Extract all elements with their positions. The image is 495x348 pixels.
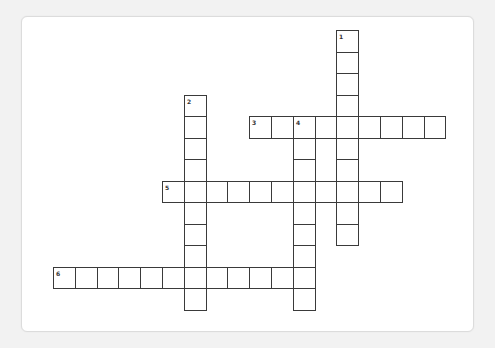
- crossword-cell[interactable]: 1: [336, 30, 359, 53]
- crossword-cell[interactable]: [336, 202, 359, 225]
- crossword-cell[interactable]: [184, 181, 207, 203]
- crossword-cell[interactable]: [249, 181, 272, 203]
- crossword-cell[interactable]: [358, 116, 381, 139]
- crossword-cell[interactable]: [424, 116, 446, 139]
- crossword-cell[interactable]: [206, 267, 228, 289]
- crossword-cell[interactable]: [271, 116, 294, 139]
- crossword-cell[interactable]: 4: [293, 116, 316, 139]
- crossword-cell[interactable]: [336, 138, 359, 160]
- clue-number: 4: [296, 119, 300, 126]
- crossword-cell[interactable]: [336, 181, 359, 203]
- crossword-cell[interactable]: [336, 159, 359, 182]
- crossword-cell[interactable]: [293, 288, 316, 311]
- crossword-cell[interactable]: [293, 181, 316, 203]
- crossword-cell[interactable]: [184, 288, 207, 311]
- crossword-cell[interactable]: [293, 267, 316, 289]
- crossword-cell[interactable]: [402, 116, 425, 139]
- crossword-cell[interactable]: [184, 245, 207, 268]
- crossword-cell[interactable]: [293, 224, 316, 246]
- crossword-cell[interactable]: [249, 267, 272, 289]
- crossword-cell[interactable]: [336, 73, 359, 96]
- clue-number: 1: [339, 33, 343, 40]
- crossword-cell[interactable]: 2: [184, 95, 207, 117]
- clue-number: 3: [252, 119, 256, 126]
- crossword-cell[interactable]: [162, 267, 185, 289]
- crossword-cell[interactable]: [315, 181, 337, 203]
- crossword-cell[interactable]: 5: [162, 181, 185, 203]
- crossword-cell[interactable]: [140, 267, 163, 289]
- crossword-cell[interactable]: [184, 267, 207, 289]
- crossword-cell[interactable]: [293, 159, 316, 182]
- clue-number: 6: [56, 270, 60, 277]
- crossword-cell[interactable]: [293, 138, 316, 160]
- crossword-cell[interactable]: [380, 116, 403, 139]
- crossword-cell[interactable]: [293, 245, 316, 268]
- crossword-grid: 123456: [0, 0, 495, 348]
- crossword-cell[interactable]: [336, 52, 359, 74]
- crossword-cell[interactable]: [293, 202, 316, 225]
- crossword-cell[interactable]: [184, 159, 207, 182]
- crossword-cell[interactable]: [206, 181, 228, 203]
- crossword-cell[interactable]: [227, 267, 250, 289]
- crossword-cell[interactable]: [271, 181, 294, 203]
- crossword-cell[interactable]: [358, 181, 381, 203]
- clue-number: 5: [165, 184, 169, 191]
- crossword-cell[interactable]: 6: [53, 267, 76, 289]
- crossword-cell[interactable]: [184, 224, 207, 246]
- crossword-cell[interactable]: [75, 267, 98, 289]
- crossword-cell[interactable]: [118, 267, 141, 289]
- crossword-cell[interactable]: [184, 202, 207, 225]
- crossword-cell[interactable]: [336, 95, 359, 117]
- crossword-cell[interactable]: [336, 224, 359, 246]
- crossword-cell[interactable]: [271, 267, 294, 289]
- crossword-cell[interactable]: [184, 138, 207, 160]
- crossword-cell[interactable]: [336, 116, 359, 139]
- crossword-cell[interactable]: [380, 181, 403, 203]
- crossword-cell[interactable]: 3: [249, 116, 272, 139]
- clue-number: 2: [187, 98, 191, 105]
- crossword-cell[interactable]: [184, 116, 207, 139]
- crossword-cell[interactable]: [315, 116, 337, 139]
- crossword-cell[interactable]: [97, 267, 119, 289]
- crossword-cell[interactable]: [227, 181, 250, 203]
